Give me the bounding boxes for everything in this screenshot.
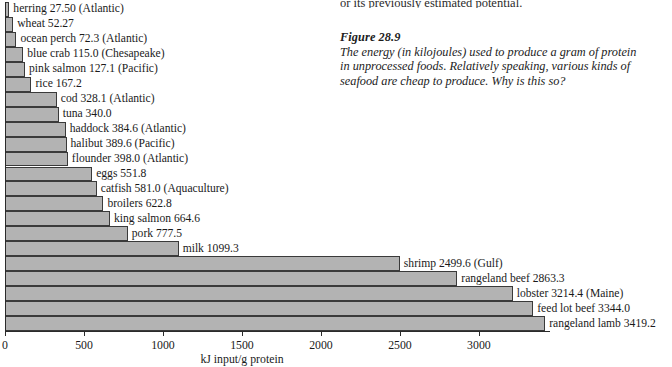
bar-row: cod 328.1 (Atlantic)	[5, 92, 665, 107]
bar-row: rangeland lamb 3419.2	[5, 316, 665, 331]
bar-row: ocean perch 72.3 (Atlantic)	[5, 32, 665, 47]
x-axis-tick-label: 3000	[467, 338, 491, 353]
bar	[5, 92, 57, 107]
bar-row: eggs 551.8	[5, 167, 665, 182]
bar	[5, 256, 400, 271]
bar-row: flounder 398.0 (Atlantic)	[5, 152, 665, 167]
bar	[5, 122, 66, 137]
bar	[5, 271, 457, 286]
bar	[5, 301, 533, 316]
x-axis-tick	[5, 331, 6, 336]
bar-row: lobster 3214.4 (Maine)	[5, 286, 665, 301]
bar	[5, 77, 31, 92]
bar-row: shrimp 2499.6 (Gulf)	[5, 256, 665, 271]
bar-label: halibut 389.6 (Pacific)	[71, 138, 175, 150]
bar-row: broilers 622.8	[5, 196, 665, 211]
bar-label: blue crab 115.0 (Chesapeake)	[27, 49, 164, 61]
x-axis-tick-label: 1000	[151, 338, 175, 353]
bar-label: rangeland beef 2863.3	[461, 273, 564, 285]
chart-plot-area: herring 27.50 (Atlantic)wheat 52.27ocean…	[5, 2, 565, 331]
bar-row: wheat 52.27	[5, 17, 665, 32]
x-axis-tick-label: 0	[2, 338, 8, 353]
bar-label: rangeland lamb 3419.2	[549, 318, 656, 330]
x-axis-line	[5, 331, 550, 332]
bar	[5, 241, 179, 256]
y-axis-line	[5, 2, 6, 331]
bar	[5, 181, 97, 196]
bar-row: pink salmon 127.1 (Pacific)	[5, 62, 665, 77]
bar-row: milk 1099.3	[5, 241, 665, 256]
x-axis-tick	[400, 331, 401, 336]
bar-row: feed lot beef 3344.0	[5, 301, 665, 316]
bar-row: halibut 389.6 (Pacific)	[5, 137, 665, 152]
bar	[5, 32, 16, 47]
bar-row: herring 27.50 (Atlantic)	[5, 2, 665, 17]
bar	[5, 152, 68, 167]
x-axis-tick-label: 2500	[388, 338, 412, 353]
x-axis-tick	[84, 331, 85, 336]
x-axis-tick-label: 2000	[309, 338, 333, 353]
bar-row: king salmon 664.6	[5, 211, 665, 226]
bar-row: haddock 384.6 (Atlantic)	[5, 122, 665, 137]
bar-label: herring 27.50 (Atlantic)	[13, 4, 123, 16]
bar	[5, 316, 545, 331]
bar	[5, 17, 13, 32]
bar-row: tuna 340.0	[5, 107, 665, 122]
x-axis-tick-label: 500	[75, 338, 93, 353]
bar-label: tuna 340.0	[63, 108, 112, 120]
bar	[5, 286, 513, 301]
bar	[5, 211, 110, 226]
bar-label: pink salmon 127.1 (Pacific)	[29, 63, 158, 75]
bar	[5, 47, 23, 62]
x-axis-tick	[163, 331, 164, 336]
bar	[5, 107, 59, 122]
bar-row: blue crab 115.0 (Chesapeake)	[5, 47, 665, 62]
bar-label: flounder 398.0 (Atlantic)	[72, 153, 188, 165]
bar	[5, 62, 25, 77]
bar	[5, 226, 128, 241]
bar-label: shrimp 2499.6 (Gulf)	[404, 258, 503, 270]
x-axis-title: kJ input/g protein	[200, 352, 283, 367]
x-axis-tick	[321, 331, 322, 336]
bar-label: milk 1099.3	[183, 243, 239, 255]
bar-label: lobster 3214.4 (Maine)	[517, 288, 624, 300]
bar-row: rice 167.2	[5, 77, 665, 92]
bar-label: cod 328.1 (Atlantic)	[61, 93, 155, 105]
bar-label: catfish 581.0 (Aquaculture)	[101, 183, 229, 195]
bar-label: eggs 551.8	[96, 168, 146, 180]
bar-row: catfish 581.0 (Aquaculture)	[5, 181, 665, 196]
bar-label: rice 167.2	[35, 78, 81, 90]
bar-label: feed lot beef 3344.0	[537, 303, 630, 315]
x-axis-tick	[479, 331, 480, 336]
bar-label: broilers 622.8	[107, 198, 171, 210]
bar	[5, 137, 67, 152]
bar-label: king salmon 664.6	[114, 213, 200, 225]
bar-row: pork 777.5	[5, 226, 665, 241]
bar-label: pork 777.5	[132, 228, 182, 240]
bar	[5, 196, 103, 211]
bar-label: haddock 384.6 (Atlantic)	[70, 123, 186, 135]
x-axis-tick-label: 1500	[230, 338, 254, 353]
bar	[5, 167, 92, 182]
bar-row: rangeland beef 2863.3	[5, 271, 665, 286]
bar-label: ocean perch 72.3 (Atlantic)	[20, 34, 147, 46]
x-axis-tick	[242, 331, 243, 336]
bar-label: wheat 52.27	[17, 19, 74, 31]
